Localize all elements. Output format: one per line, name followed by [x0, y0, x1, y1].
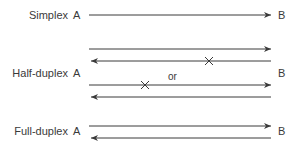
node-b-label: B	[278, 67, 285, 79]
mode-label-simplex: Simplex	[0, 9, 68, 21]
or-separator-label: or	[168, 71, 177, 83]
node-b-label: B	[278, 125, 285, 137]
node-b-label: B	[278, 9, 285, 21]
mode-label-full-duplex: Full-duplex	[0, 125, 68, 137]
mode-label-half-duplex: Half-duplex	[0, 67, 68, 79]
node-a-label: A	[73, 125, 80, 137]
node-a-label: A	[73, 67, 80, 79]
node-a-label: A	[73, 9, 80, 21]
